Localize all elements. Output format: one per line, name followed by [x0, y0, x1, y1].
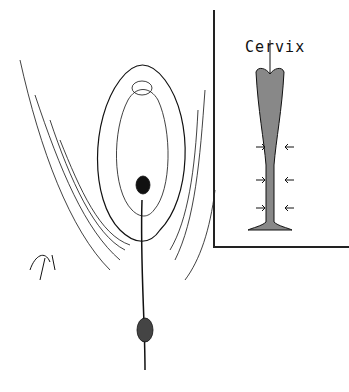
cervix-label: Cervix — [245, 38, 305, 56]
opening — [136, 176, 150, 194]
clitoral-hood — [132, 81, 152, 95]
inner-contour — [116, 90, 168, 217]
anus — [137, 318, 153, 342]
artist-signature — [30, 255, 55, 280]
left-hatching — [20, 60, 130, 270]
right-hatching — [170, 90, 215, 280]
perineum-line — [142, 200, 145, 370]
